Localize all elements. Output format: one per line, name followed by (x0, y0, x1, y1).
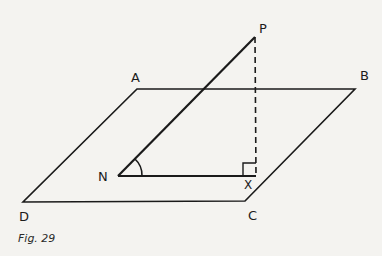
right-angle-marker (243, 163, 256, 176)
diagram-canvas (0, 0, 382, 256)
label-d: D (19, 210, 29, 223)
plane-abcd (23, 89, 355, 202)
angle-arc (135, 159, 142, 176)
dashed-line-px (255, 37, 256, 176)
label-c: C (248, 209, 257, 222)
label-a: A (131, 71, 140, 84)
line-pn (118, 37, 255, 176)
label-b: B (360, 69, 369, 82)
label-n: N (98, 170, 108, 183)
figure-caption: Fig. 29 (18, 232, 55, 245)
label-p: P (259, 22, 267, 35)
label-x: X (244, 179, 252, 191)
